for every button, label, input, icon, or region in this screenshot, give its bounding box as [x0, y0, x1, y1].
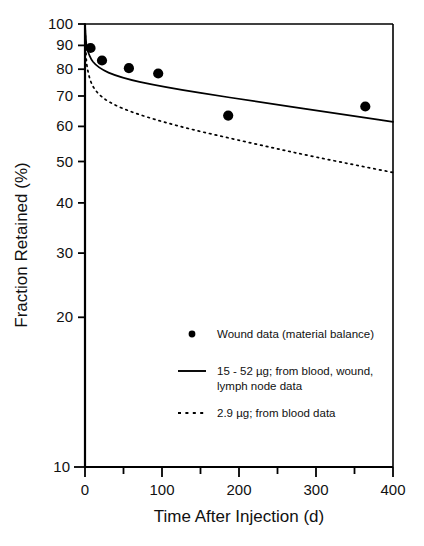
x-axis-ticks: [85, 467, 393, 477]
chart-legend: Wound data (material balance) 15 - 52 µg…: [178, 328, 374, 419]
x-tick-label: 0: [81, 481, 89, 498]
series-scatter-points: [85, 43, 370, 121]
y-tick-label: 20: [56, 308, 73, 325]
legend-label-solid-line-1: 15 - 52 µg; from blood, wound,: [217, 365, 373, 377]
y-tick-label: 100: [48, 15, 73, 32]
legend-label-wound-data: Wound data (material balance): [217, 328, 374, 340]
y-tick-label: 70: [56, 87, 73, 104]
y-tick-label: 10: [53, 458, 70, 475]
series-line-solid: [85, 24, 393, 122]
legend-marker-scatter-icon: [189, 331, 196, 338]
data-point: [360, 101, 370, 111]
y-tick-labels: 100 90 80 70 60 50 40 30 20 10: [48, 15, 73, 475]
y-tick-label: 80: [56, 60, 73, 77]
x-tick-label: 300: [303, 481, 328, 498]
y-axis-ticks: [74, 24, 85, 467]
x-tick-label: 200: [226, 481, 251, 498]
x-tick-labels: 0 100 200 300 400: [81, 481, 406, 498]
data-point: [97, 55, 107, 65]
plot-frame: [85, 24, 393, 467]
legend-label-solid-line-2: lymph node data: [217, 380, 303, 392]
x-axis-title: Time After Injection (d): [154, 507, 324, 526]
y-tick-label: 90: [56, 36, 73, 53]
x-tick-label: 400: [380, 481, 405, 498]
y-axis-title: Fraction Retained (%): [12, 162, 31, 327]
y-tick-label: 40: [56, 194, 73, 211]
data-point: [85, 43, 95, 53]
y-tick-label: 60: [56, 117, 73, 134]
y-tick-label: 50: [56, 153, 73, 170]
chart-svg: 100 90 80 70 60 50 40 30 20 10 0 100: [0, 0, 424, 546]
data-point: [223, 111, 233, 121]
x-tick-label: 100: [149, 481, 174, 498]
data-point: [153, 68, 163, 78]
y-tick-label: 30: [56, 244, 73, 261]
legend-label-dotted-line: 2.9 µg; from blood data: [217, 407, 336, 419]
chart-figure: 100 90 80 70 60 50 40 30 20 10 0 100: [0, 0, 424, 546]
data-point: [124, 63, 134, 73]
